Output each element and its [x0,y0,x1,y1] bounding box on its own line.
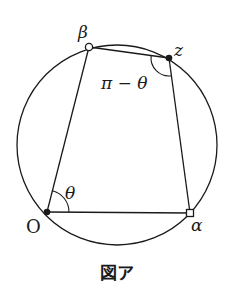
point-O-marker [44,209,51,216]
label-O: O [26,216,41,237]
side-alpha-z [169,58,190,213]
figure-caption: 図ア [100,263,134,283]
label-beta: β [77,22,88,42]
cyclic-quadrilateral-diagram: β z O α θ π − θ 図ア [0,0,230,289]
point-z-marker [166,55,173,62]
label-angle-pi-minus-theta: π − θ [100,73,147,93]
side-O-alpha [47,212,190,213]
point-beta-marker [85,43,92,50]
label-alpha: α [191,215,203,235]
label-angle-theta: θ [65,183,75,203]
label-z: z [173,40,184,60]
side-z-beta [89,47,169,58]
